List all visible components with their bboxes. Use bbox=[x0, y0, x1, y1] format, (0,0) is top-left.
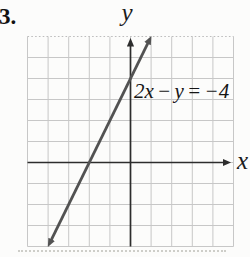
equation-label: 2x − y = −4 bbox=[134, 79, 230, 103]
axes bbox=[28, 46, 224, 247]
y-axis-label: y bbox=[118, 0, 133, 26]
scan-artifact bbox=[18, 250, 226, 252]
x-axis-label: x bbox=[236, 147, 248, 174]
problem-number-label: 3. bbox=[0, 4, 16, 29]
graph-figure: 3. y x 2x − y = −4 bbox=[0, 0, 250, 257]
textbook-figure: 3. y x 2x − y = −4 bbox=[0, 0, 250, 257]
